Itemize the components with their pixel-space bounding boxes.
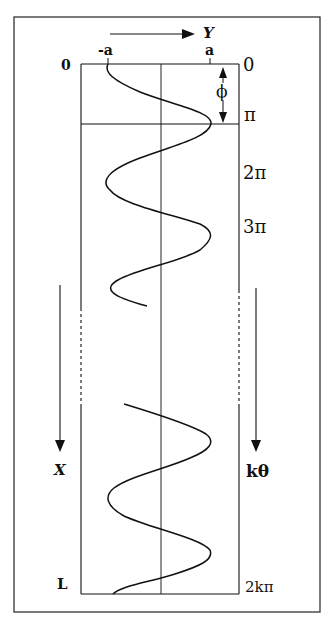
ktheta-down-arrow-icon bbox=[251, 440, 261, 452]
left-axis-zero: 0 bbox=[61, 58, 71, 72]
y-axis-label: Y bbox=[203, 26, 214, 41]
wave-upper bbox=[106, 64, 211, 306]
right-axis-2pi: 2π bbox=[243, 164, 266, 182]
wave-lower bbox=[108, 404, 211, 594]
phase-label: ϕ bbox=[216, 83, 228, 100]
right-axis-pi: π bbox=[244, 106, 256, 124]
diagram-canvas bbox=[0, 0, 336, 625]
ktheta-label: kθ bbox=[246, 463, 269, 480]
right-axis-0: 0 bbox=[243, 56, 254, 74]
tick-label-pos-a: a bbox=[205, 43, 214, 57]
tick-label-neg-a: -a bbox=[98, 43, 113, 57]
right-arrow-icon bbox=[182, 29, 195, 39]
x-axis-label: X bbox=[54, 463, 66, 478]
right-axis-2kpi: 2kπ bbox=[245, 580, 274, 595]
x-down-arrow-icon bbox=[55, 440, 65, 452]
right-axis-3pi: 3π bbox=[243, 218, 266, 236]
left-axis-L: L bbox=[57, 577, 68, 592]
down-arrow-icon bbox=[219, 112, 227, 123]
up-arrow-icon bbox=[219, 67, 227, 78]
